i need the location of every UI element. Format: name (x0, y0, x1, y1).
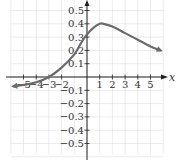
y-axis-arrow-icon (85, 0, 90, 6)
y-tick-label: −0.1 (60, 85, 84, 96)
curve-left-arrow-icon (11, 83, 17, 89)
x-tick-label: 2 (109, 79, 115, 90)
x-tick-label: 1 (97, 79, 103, 90)
x-tick-label: 3 (122, 79, 128, 90)
function-graph: −5−4−3−2123450.50.40.30.20.1−0.1−0.2−0.3… (0, 0, 176, 166)
y-tick-label: 0.5 (68, 5, 84, 16)
x-tick-label: 4 (135, 79, 141, 90)
x-axis-arrow-icon (161, 75, 168, 80)
y-tick-label: −0.4 (60, 125, 84, 136)
y-tick-label: 0.4 (68, 18, 84, 29)
y-tick-label: −0.5 (60, 138, 84, 149)
x-tick-label: 5 (147, 79, 153, 90)
x-axis-label: x (169, 71, 176, 84)
y-tick-label: −0.3 (60, 111, 84, 122)
y-tick-label: −0.2 (60, 98, 84, 109)
